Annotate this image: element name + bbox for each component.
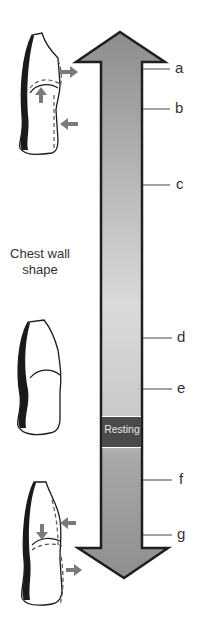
outward-arrow-icon: [60, 66, 78, 78]
marker-label-b: b: [175, 100, 183, 115]
inward-arrow-icon: [60, 118, 78, 130]
marker-label-d: d: [177, 329, 185, 344]
marker-label-f: f: [179, 471, 183, 486]
outward-arrow-icon: [66, 564, 82, 576]
marker-label-a: a: [175, 60, 183, 75]
side-title-line2: shape: [4, 262, 76, 278]
diagram-canvas: [0, 0, 201, 632]
side-title-line1: Chest wall: [4, 246, 76, 262]
lung-volume-double-arrow: [76, 32, 168, 578]
marker-label-e: e: [177, 380, 185, 395]
inward-arrow-icon: [60, 517, 76, 529]
chest-wall-resting-illustration: [18, 320, 61, 435]
marker-label-g: g: [177, 526, 185, 541]
marker-label-c: c: [176, 176, 184, 191]
chest-wall-expiration-illustration: [22, 482, 82, 605]
chest-wall-shape-title: Chest wall shape: [4, 246, 76, 278]
marker-ticks: [143, 69, 172, 535]
chest-wall-inspiration-illustration: [20, 33, 78, 154]
resting-label: Resting: [101, 424, 143, 435]
